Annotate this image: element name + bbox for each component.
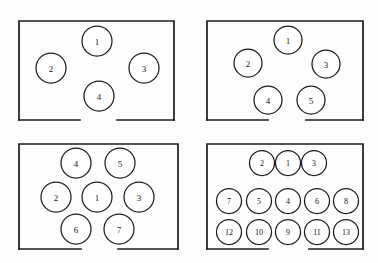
seat-label-1: 1: [286, 36, 291, 46]
seat-label-7: 7: [227, 197, 231, 206]
seat-5[interactable]: 5: [297, 86, 325, 114]
seat-label-1: 1: [286, 159, 290, 168]
seat-2[interactable]: 2: [250, 151, 275, 176]
seat-label-3: 3: [324, 60, 329, 70]
seat-label-10: 10: [255, 228, 263, 237]
seat-11[interactable]: 11: [305, 220, 330, 245]
seat-4[interactable]: 4: [84, 81, 114, 111]
figure-canvas: 123412345452136721375468121091113: [0, 0, 378, 263]
seat-label-2: 2: [49, 64, 54, 74]
seat-label-4: 4: [266, 96, 271, 106]
seat-label-3: 3: [137, 193, 142, 203]
seat-3[interactable]: 3: [312, 50, 340, 78]
seat-label-3: 3: [312, 159, 316, 168]
seat-label-2: 2: [246, 59, 251, 69]
seat-1[interactable]: 1: [82, 26, 112, 56]
seat-label-1: 1: [95, 193, 100, 203]
seat-label-3: 3: [142, 64, 147, 74]
seat-label-13: 13: [342, 228, 350, 237]
seat-1[interactable]: 1: [82, 182, 112, 212]
seat-label-2: 2: [54, 193, 59, 203]
seating-arrangement-figure: 123412345452136721375468121091113: [0, 0, 378, 263]
seat-7[interactable]: 7: [104, 214, 134, 244]
seat-label-5: 5: [118, 159, 123, 169]
seat-9[interactable]: 9: [276, 220, 301, 245]
seat-label-11: 11: [313, 228, 321, 237]
seat-label-7: 7: [117, 225, 122, 235]
seat-label-5: 5: [257, 197, 261, 206]
seat-5[interactable]: 5: [105, 148, 135, 178]
seat-4[interactable]: 4: [61, 148, 91, 178]
seat-label-6: 6: [315, 197, 319, 206]
panel-top-left: 1234: [19, 21, 174, 120]
seat-5[interactable]: 5: [247, 189, 272, 214]
seat-label-8: 8: [344, 197, 348, 206]
seat-6[interactable]: 6: [305, 189, 330, 214]
panel-top-right: 12345: [207, 21, 363, 120]
seat-label-1: 1: [95, 37, 100, 47]
seat-4[interactable]: 4: [276, 189, 301, 214]
seat-13[interactable]: 13: [334, 220, 359, 245]
seat-label-4: 4: [97, 92, 102, 102]
seat-2[interactable]: 2: [36, 53, 66, 83]
seat-3[interactable]: 3: [129, 53, 159, 83]
seat-2[interactable]: 2: [234, 49, 262, 77]
seat-8[interactable]: 8: [334, 189, 359, 214]
seat-label-4: 4: [286, 197, 290, 206]
seat-3[interactable]: 3: [302, 151, 327, 176]
seat-1[interactable]: 1: [276, 151, 301, 176]
seat-3[interactable]: 3: [124, 182, 154, 212]
seat-7[interactable]: 7: [217, 189, 242, 214]
seat-12[interactable]: 12: [217, 220, 242, 245]
panel-bottom-right: 21375468121091113: [207, 144, 363, 249]
seat-4[interactable]: 4: [254, 86, 282, 114]
seat-label-4: 4: [74, 159, 79, 169]
seat-10[interactable]: 10: [247, 220, 272, 245]
seat-2[interactable]: 2: [41, 182, 71, 212]
seat-label-9: 9: [286, 228, 290, 237]
seat-label-5: 5: [309, 96, 314, 106]
seat-label-12: 12: [225, 228, 233, 237]
seat-label-6: 6: [74, 225, 79, 235]
seat-6[interactable]: 6: [61, 214, 91, 244]
panel-bottom-left: 4521367: [19, 144, 178, 249]
seat-1[interactable]: 1: [274, 26, 302, 54]
seat-label-2: 2: [260, 159, 264, 168]
